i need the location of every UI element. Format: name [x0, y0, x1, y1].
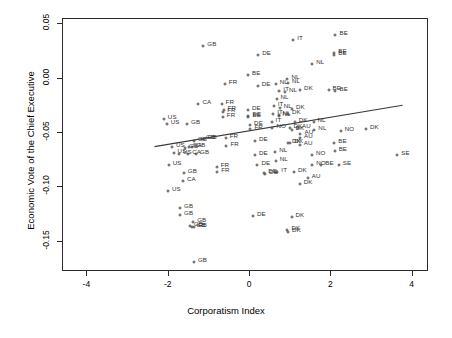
data-point-label: NO: [276, 123, 285, 129]
data-point-label: IT: [297, 35, 303, 41]
data-point-label: DE: [259, 150, 268, 156]
data-point-label: GB: [200, 149, 209, 155]
data-point-label: NL: [281, 94, 289, 100]
plus-marker-icon: [333, 150, 336, 153]
data-point-label: NO: [345, 126, 354, 132]
plus-marker-icon: [298, 182, 301, 185]
plus-marker-icon: [311, 163, 314, 166]
plus-marker-icon: [224, 136, 227, 139]
data-point-label: FR: [230, 141, 238, 147]
plus-marker-icon: [298, 143, 301, 146]
plus-marker-icon: [247, 108, 250, 111]
data-point-label: GB: [188, 168, 197, 174]
data-point-label: CA: [202, 99, 211, 105]
data-point-label: BE: [338, 138, 346, 144]
data-point-label: NL: [280, 156, 288, 162]
y-tick-mark: [57, 78, 62, 79]
plus-marker-icon: [215, 165, 218, 168]
plus-marker-icon: [194, 152, 197, 155]
plus-marker-icon: [223, 82, 226, 85]
plus-marker-icon: [272, 105, 275, 108]
plus-marker-icon: [311, 63, 314, 66]
plus-marker-icon: [290, 128, 293, 131]
data-point-label: DK: [304, 179, 313, 185]
plus-marker-icon: [256, 163, 259, 166]
data-point-label: NL: [318, 125, 326, 131]
data-point-label: GB: [198, 222, 207, 228]
data-point-label: AU: [312, 173, 321, 179]
plus-marker-icon: [249, 127, 252, 130]
plus-marker-icon: [257, 54, 260, 57]
plot-area: GBDEITBENLNLNLBEBEFRDEBENLITNLDKBEBENLCA…: [62, 18, 428, 271]
data-point-label: NO: [316, 150, 325, 156]
data-point-label: BE: [339, 86, 347, 92]
data-point-label: IT: [281, 167, 287, 173]
plus-marker-icon: [339, 129, 342, 132]
plus-marker-icon: [247, 116, 250, 119]
plus-marker-icon: [274, 160, 277, 163]
x-tick-label: 2: [328, 279, 333, 289]
plus-marker-icon: [297, 126, 300, 129]
scatter-plot-figure: GBDEITBENLNLNLBEBEFRDEBENLITNLDKBEBENLCA…: [0, 0, 452, 338]
data-point-label: NL: [318, 117, 326, 123]
plus-marker-icon: [192, 226, 195, 229]
data-point-label: SE: [343, 160, 351, 166]
plus-marker-icon: [220, 103, 223, 106]
plus-marker-icon: [290, 107, 293, 110]
data-point-label: GB: [198, 257, 207, 263]
y-tick-label: -0.10: [41, 161, 51, 209]
plus-marker-icon: [333, 52, 336, 55]
y-tick-label: 0.05: [41, 0, 51, 46]
data-point-label: DK: [296, 212, 305, 218]
plus-marker-icon: [327, 88, 330, 91]
data-point-label: DE: [262, 81, 271, 87]
plus-marker-icon: [299, 132, 302, 135]
plus-marker-icon: [320, 163, 323, 166]
plus-marker-icon: [292, 171, 295, 174]
plus-marker-icon: [179, 213, 182, 216]
plus-marker-icon: [247, 74, 250, 77]
plus-marker-icon: [312, 121, 315, 124]
x-tick-label: 0: [247, 279, 252, 289]
plus-marker-icon: [253, 140, 256, 143]
plus-marker-icon: [290, 216, 293, 219]
y-tick-label: -0.15: [41, 216, 51, 264]
data-point-label: US: [172, 186, 181, 192]
x-axis-label: Corporatism Index: [0, 305, 452, 316]
data-point-label: DE: [261, 160, 270, 166]
data-point-label: DE: [262, 50, 271, 56]
data-point-label: BE: [252, 70, 260, 76]
plus-marker-icon: [337, 163, 340, 166]
plus-marker-icon: [253, 154, 256, 157]
plus-marker-icon: [292, 39, 295, 42]
plus-marker-icon: [222, 110, 225, 113]
data-point-label: BE: [339, 146, 347, 152]
plus-marker-icon: [334, 33, 337, 36]
x-tick-mark: [86, 271, 87, 276]
data-point-label: BE: [338, 48, 346, 54]
data-point-label: DK: [370, 124, 379, 130]
x-tick-label: -2: [164, 279, 172, 289]
plus-marker-icon: [187, 152, 190, 155]
data-point-label: GB: [207, 41, 216, 47]
x-tick-mark: [330, 271, 331, 276]
plus-marker-icon: [186, 122, 189, 125]
plus-marker-icon: [270, 120, 273, 123]
data-point-label: BE: [325, 160, 333, 166]
plus-marker-icon: [197, 103, 200, 106]
plus-marker-icon: [251, 215, 254, 218]
plus-marker-icon: [172, 152, 175, 155]
data-point-label: FR: [230, 133, 238, 139]
data-point-label: GB: [208, 134, 217, 140]
plus-marker-icon: [274, 151, 277, 154]
plus-marker-icon: [272, 113, 275, 116]
data-point-label: SE: [401, 150, 409, 156]
plus-marker-icon: [167, 163, 170, 166]
y-tick-mark: [57, 241, 62, 242]
data-point-label: US: [171, 119, 180, 125]
data-point-label: DK: [298, 167, 307, 173]
data-point-label: NL: [280, 79, 288, 85]
plus-marker-icon: [286, 113, 289, 116]
data-point-label: FR: [254, 124, 262, 130]
plus-marker-icon: [299, 89, 302, 92]
